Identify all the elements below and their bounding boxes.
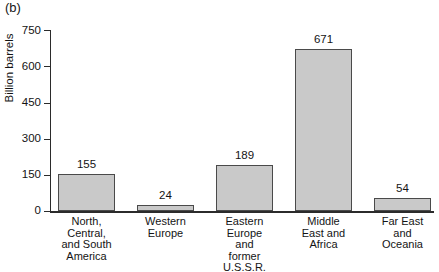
- y-tick-label-300: 300: [1, 133, 41, 145]
- bar-value-middle-east-and-africa: 671: [295, 33, 352, 45]
- bar-chart-figure: (b) Billion barrels 750 600 450 300 150 …: [0, 0, 439, 272]
- label-line: Eastern: [210, 216, 279, 228]
- x-axis-category-label-eastern-europe-and-former-ussr: Eastern Europe and former U.S.S.R.: [210, 216, 279, 272]
- x-axis-category-label-north-central-and-south-america: North, Central, and South America: [52, 216, 121, 262]
- y-axis-line: [50, 30, 51, 212]
- bar-middle-east-and-africa: [295, 49, 352, 211]
- x-axis-category-label-western-europe: Western Europe: [131, 216, 200, 239]
- label-line: America: [52, 251, 121, 263]
- bar-north-central-and-south-america: [58, 174, 115, 211]
- bar-value-eastern-europe-and-former-ussr: 189: [216, 149, 273, 161]
- y-tick-label-450: 450: [1, 97, 41, 109]
- label-line: U.S.S.R.: [210, 262, 279, 272]
- bar-far-east-and-oceania: [374, 198, 431, 211]
- label-line: Africa: [289, 239, 358, 251]
- y-axis-tick-labels: 750 600 450 300 150 0: [0, 0, 41, 272]
- label-line: Europe: [131, 228, 200, 240]
- y-tick-label-150: 150: [1, 169, 41, 181]
- bar-eastern-europe-and-former-ussr: [216, 165, 273, 211]
- label-line: Middle: [289, 216, 358, 228]
- y-tick-label-0: 0: [1, 205, 41, 217]
- bar-western-europe: [137, 205, 194, 211]
- y-tick-label-600: 600: [1, 61, 41, 73]
- label-line: Far East: [368, 216, 437, 228]
- bar-value-far-east-and-oceania: 54: [374, 182, 431, 194]
- x-axis-line: [50, 211, 434, 213]
- y-tick-label-750: 750: [1, 25, 41, 37]
- label-line: Oceania: [368, 239, 437, 251]
- bar-value-north-central-and-south-america: 155: [58, 158, 115, 170]
- bar-value-western-europe: 24: [137, 189, 194, 201]
- label-line: North,: [52, 216, 121, 228]
- label-line: Western: [131, 216, 200, 228]
- x-axis-category-label-far-east-and-oceania: Far East and Oceania: [368, 216, 437, 251]
- x-axis-category-label-middle-east-and-africa: Middle East and Africa: [289, 216, 358, 251]
